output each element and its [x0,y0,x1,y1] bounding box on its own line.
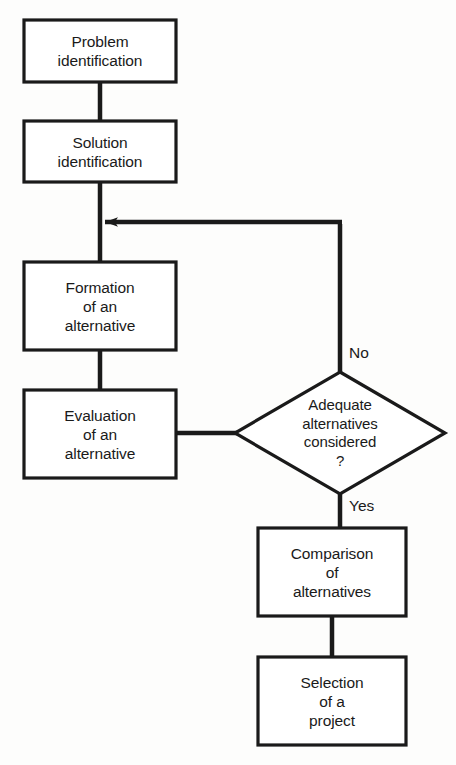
node-formation-of-an-alternative [24,262,176,350]
node-selection-of-a-project [258,657,406,745]
flowchart-canvas [0,0,456,765]
node-problem-identification [24,20,176,82]
node-adequate-alternatives-considered [235,372,445,494]
edge-label-yes: Yes [349,497,374,515]
node-solution-identification [24,121,176,182]
node-comparison-of-alternatives [258,528,406,616]
edge-label-no: No [349,344,369,362]
flowchart-diagram: Problem identification Solution identifi… [0,0,456,765]
node-evaluation-of-an-alternative [24,390,176,478]
